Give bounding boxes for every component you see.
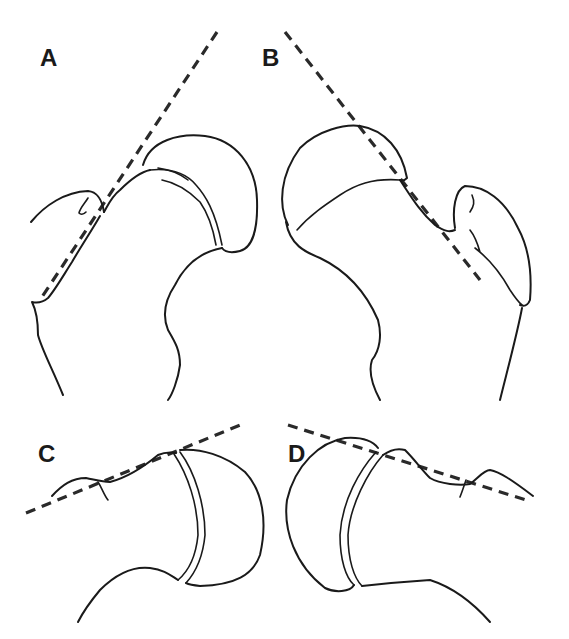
spur-detail-d — [460, 480, 466, 497]
socket-c — [180, 450, 264, 586]
cartilage-line-c1 — [174, 454, 198, 580]
shaft-lower-c — [78, 568, 178, 622]
physis-line-a2 — [162, 180, 216, 245]
panel-c: C — [26, 423, 264, 622]
femoral-head-a — [143, 135, 257, 252]
lateral-cortex-b — [500, 308, 522, 400]
trochanter-detail-a — [79, 198, 88, 214]
dashed-line-c — [26, 423, 245, 513]
panel-label-c: C — [38, 440, 55, 467]
medial-cortex-a — [165, 248, 222, 400]
neck-superior-b — [400, 180, 455, 231]
dashed-line-d — [288, 425, 526, 500]
panel-label-b: B — [262, 44, 279, 71]
dashed-line-b — [285, 32, 480, 280]
dashed-line-a — [40, 32, 217, 300]
figure: A B C — [0, 0, 569, 639]
panel-label-a: A — [40, 44, 57, 71]
figure-canvas: A B C — [0, 0, 569, 639]
greater-trochanter-b — [454, 186, 531, 306]
shaft-lower-d — [362, 580, 490, 622]
trochanter-detail-b — [470, 230, 522, 305]
cartilage-line-d2 — [348, 455, 383, 586]
femoral-head-b — [282, 126, 407, 225]
lateral-cortex-a — [32, 216, 100, 395]
physis-line-a — [150, 170, 222, 245]
medial-cortex-b — [286, 222, 380, 400]
shaft-upper-d — [383, 449, 533, 496]
panel-a: A — [31, 32, 257, 400]
panel-b: B — [262, 32, 531, 400]
spur-detail-c — [98, 482, 108, 500]
physis-line-b — [297, 180, 400, 230]
panel-d: D — [286, 425, 533, 622]
panel-label-d: D — [288, 440, 305, 467]
trochanter-tip-b — [470, 195, 474, 212]
